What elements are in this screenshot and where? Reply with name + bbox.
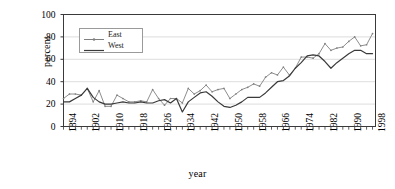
series-point-east: [75, 93, 77, 95]
series-point-east: [229, 98, 231, 100]
series-point-east: [63, 98, 65, 100]
series-point-east: [247, 86, 249, 88]
legend-label-west: West: [108, 41, 124, 50]
series-point-east: [217, 89, 219, 91]
legend: East West: [79, 28, 143, 53]
series-point-east: [360, 45, 362, 47]
series-point-east: [235, 93, 237, 95]
legend-swatch-east: [83, 30, 105, 39]
legend-item-east: East: [80, 29, 142, 40]
series-point-east: [324, 43, 326, 45]
line-chart: percent year 020406080100 18941902191019…: [0, 0, 395, 189]
series-point-east: [271, 72, 273, 74]
series-point-east: [187, 88, 189, 90]
series-point-east: [318, 53, 320, 55]
legend-swatch-west: [83, 41, 105, 50]
series-point-east: [170, 98, 172, 100]
series-point-east: [342, 46, 344, 48]
legend-label-east: East: [108, 30, 122, 39]
series-point-east: [372, 33, 374, 35]
series-point-east: [300, 56, 302, 58]
series-point-east: [366, 44, 368, 46]
series-point-east: [98, 90, 100, 92]
series-point-east: [277, 74, 279, 76]
series-point-east: [348, 41, 350, 43]
series-point-east: [330, 49, 332, 51]
series-point-east: [253, 83, 255, 85]
series-point-east: [182, 102, 184, 104]
series-point-east: [241, 89, 243, 91]
series-point-east: [116, 94, 118, 96]
series-point-east: [199, 90, 201, 92]
series-point-east: [104, 105, 106, 107]
series-point-east: [354, 36, 356, 38]
series-point-east: [152, 89, 154, 91]
series-point-east: [259, 85, 261, 87]
series-point-east: [223, 88, 225, 90]
series-point-east: [158, 98, 160, 100]
series-point-east: [92, 101, 94, 103]
plot-canvas: [0, 0, 395, 189]
series-point-east: [69, 93, 71, 95]
series-point-east: [265, 76, 267, 78]
series-point-east: [336, 47, 338, 49]
legend-item-west: West: [80, 40, 142, 51]
series-point-east: [122, 98, 124, 100]
series-point-east: [205, 84, 207, 86]
series-point-east: [312, 57, 314, 59]
series-point-east: [164, 104, 166, 106]
series-point-east: [110, 105, 112, 107]
series-point-east: [211, 91, 213, 93]
series-point-east: [283, 66, 285, 68]
series-point-east: [193, 93, 195, 95]
